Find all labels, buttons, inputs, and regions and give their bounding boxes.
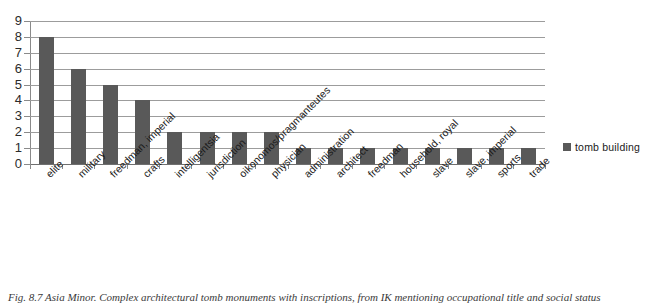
figure-caption: Fig. 8.7 Asia Minor. Complex architectur… <box>8 291 663 304</box>
legend-swatch-icon <box>563 143 571 151</box>
y-axis-tick-label: 0 <box>0 157 22 170</box>
y-axis-tick-label: 1 <box>0 141 22 154</box>
figure-container: 9876543210 elitemilitaryfreedman, imperi… <box>0 0 665 307</box>
bar-chart: 9876543210 elitemilitaryfreedman, imperi… <box>0 0 665 175</box>
bar <box>167 132 182 164</box>
chart-legend: tomb building <box>563 141 640 153</box>
x-axis-labels: elitemilitaryfreedman, imperialcraftsint… <box>0 0 665 132</box>
x-axis-tick-mark <box>30 164 31 169</box>
bar <box>457 148 472 164</box>
legend-label: tomb building <box>575 141 640 153</box>
